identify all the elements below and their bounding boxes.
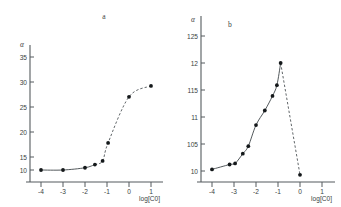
panel-a-ytick-20: 20 — [20, 129, 28, 136]
data-point — [254, 123, 258, 127]
panel-b-x-ticks — [212, 182, 322, 187]
panel-a-x-ticks — [41, 182, 151, 187]
panel-a-letter: a — [102, 12, 106, 21]
panel-a-series — [39, 84, 153, 172]
figure-container: a α 35 30 25 20 15 10 — [0, 0, 341, 207]
panel-b-ytick-12: 12 — [191, 60, 199, 67]
panel-b-ytick-105: 105 — [187, 141, 198, 148]
panel-a-plot: a α 35 30 25 20 15 10 — [0, 0, 170, 207]
data-point — [61, 168, 65, 172]
panel-a-xtick--4: -4 — [38, 188, 44, 195]
panel-b-series — [210, 61, 302, 177]
panel-a-ytick-35: 35 — [20, 54, 28, 61]
panel-b-plot: b α 125 12 115 11 105 10 — [170, 0, 341, 207]
data-point — [241, 152, 245, 156]
panel-b-xtick--4: -4 — [209, 188, 215, 195]
data-point — [275, 83, 279, 87]
panel-b-xtick--2: -2 — [253, 188, 259, 195]
panel-a-xtick--1: -1 — [104, 188, 110, 195]
data-point — [246, 144, 250, 148]
panel-a-xtick-0: 0 — [127, 188, 131, 195]
panel-b-xtick-1: 1 — [320, 188, 324, 195]
panel-b-ytick-10: 10 — [191, 168, 199, 175]
panel-a-ytick-15: 15 — [20, 154, 28, 161]
data-point — [101, 159, 105, 163]
panel-b-xtick--1: -1 — [275, 188, 281, 195]
data-point — [149, 84, 153, 88]
panel-b-y-ticks — [201, 36, 205, 171]
panel-b-xtick--3: -3 — [231, 188, 237, 195]
curve-dashed-segment — [95, 86, 151, 165]
data-point — [228, 163, 232, 167]
data-point — [127, 95, 131, 99]
curve-solid-segment — [212, 63, 281, 169]
panel-b-xtick-0: 0 — [298, 188, 302, 195]
data-point — [106, 141, 110, 145]
panel-a-ytick-30: 30 — [20, 79, 28, 86]
data-point — [93, 163, 97, 167]
data-point — [298, 173, 302, 177]
panel-a-xtick--2: -2 — [82, 188, 88, 195]
panel-a: a α 35 30 25 20 15 10 — [0, 0, 170, 207]
panel-a-ytick-25: 25 — [20, 104, 28, 111]
data-point — [39, 168, 43, 172]
panel-a-xtick--3: -3 — [60, 188, 66, 195]
panel-a-y-axis-label: α — [20, 40, 24, 49]
panel-a-x-axis-label: log[C0] — [139, 195, 160, 203]
data-point — [279, 61, 283, 65]
data-point — [263, 109, 267, 113]
panel-b-ytick-125: 125 — [187, 33, 198, 40]
panel-a-xtick-1: 1 — [149, 188, 153, 195]
panel-b: b α 125 12 115 11 105 10 — [170, 0, 341, 207]
curve-dashed-segment — [281, 63, 300, 175]
data-point — [271, 94, 275, 98]
panel-a-y-ticks — [30, 57, 34, 170]
panel-a-ytick-10: 10 — [20, 167, 28, 174]
panel-b-y-axis-label: α — [191, 15, 195, 24]
data-point — [233, 162, 237, 166]
data-point — [83, 166, 87, 170]
data-point — [210, 167, 214, 171]
panel-b-ytick-115: 115 — [187, 87, 198, 94]
panel-b-ytick-11: 11 — [191, 114, 198, 121]
panel-b-x-axis-label: log[C0] — [311, 195, 332, 203]
panel-b-letter: b — [228, 20, 232, 29]
